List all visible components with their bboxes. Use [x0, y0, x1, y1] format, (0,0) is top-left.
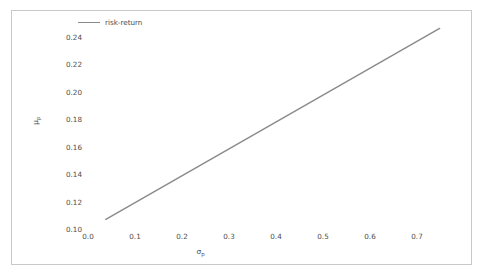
- x-tick-label: 0.3: [223, 232, 234, 241]
- y-tick-label: 0.24: [66, 34, 82, 42]
- y-tick-label: 0.16: [66, 144, 82, 152]
- risk-return-line-plot: [88, 24, 453, 227]
- legend-line-swatch: [78, 22, 100, 23]
- x-tick-label: 0.2: [176, 232, 187, 241]
- x-axis-tick-labels: 0.0 0.1 0.2 0.3 0.4 0.5 0.6 0.7: [0, 232, 483, 244]
- x-axis-title-subscript: p: [201, 251, 204, 257]
- series-line-risk-return: [106, 28, 440, 219]
- legend-label-risk-return: risk-return: [105, 18, 142, 27]
- y-tick-label: 0.22: [66, 61, 82, 69]
- x-tick-label: 0.0: [82, 232, 93, 241]
- chart-legend: risk-return: [78, 18, 142, 27]
- chart-figure: 0.24 0.22 0.20 0.18 0.16 0.14 0.12 0.10 …: [0, 0, 483, 272]
- x-tick-label: 0.4: [270, 232, 281, 241]
- y-axis-title-subscript: p: [35, 117, 41, 120]
- y-tick-label: 0.20: [66, 89, 82, 97]
- x-tick-label: 0.5: [317, 232, 328, 241]
- x-tick-label: 0.1: [129, 232, 140, 241]
- y-tick-label: 0.14: [66, 171, 82, 179]
- y-tick-label: 0.12: [66, 199, 82, 207]
- plot-area: [88, 24, 453, 227]
- x-tick-label: 0.7: [411, 232, 422, 241]
- y-axis-title-symbol: μ: [31, 120, 40, 125]
- y-axis-title: μp: [31, 109, 41, 133]
- x-tick-label: 0.6: [364, 232, 375, 241]
- x-axis-title: σp: [0, 247, 483, 257]
- y-tick-label: 0.18: [66, 116, 82, 124]
